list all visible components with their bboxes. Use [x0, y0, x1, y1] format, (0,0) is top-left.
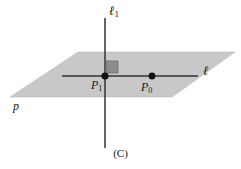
label-point-p0: P0 — [141, 81, 152, 95]
figure-canvas — [0, 0, 241, 169]
label-point-p0-subscript: 0 — [148, 86, 152, 95]
label-point-p1: P1 — [91, 79, 102, 93]
figure-caption: (C) — [0, 148, 241, 159]
label-plane-p: p — [13, 100, 19, 112]
label-line-ell1: ℓ1 — [109, 4, 119, 19]
label-line-ell1-subscript: 1 — [114, 9, 118, 19]
right-angle-square-icon — [106, 61, 118, 73]
geometry-figure: ℓ1 ℓ P1 P0 p (C) — [0, 0, 241, 169]
label-line-ell-base: ℓ — [203, 63, 208, 78]
plane-p-shape — [10, 52, 235, 97]
label-line-ell: ℓ — [203, 64, 208, 77]
point-p0-dot — [149, 73, 156, 80]
label-point-p1-subscript: 1 — [98, 84, 102, 93]
point-p1-dot — [101, 72, 108, 79]
